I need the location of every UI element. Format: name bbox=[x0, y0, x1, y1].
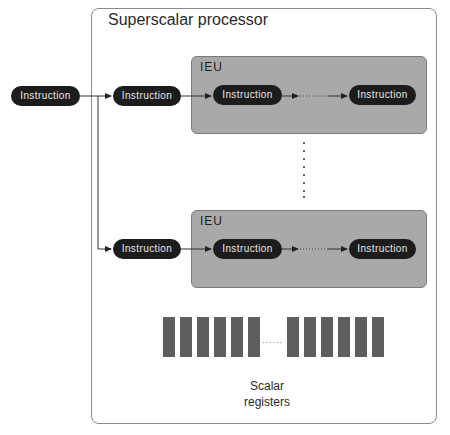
register-cell bbox=[321, 317, 333, 357]
scalar-registers-label-line2: registers bbox=[230, 394, 304, 410]
vertical-ellipsis-icon bbox=[303, 142, 305, 198]
ieu2-last-instruction-pill: Instruction bbox=[349, 239, 416, 259]
ieu1-first-instruction-pill: Instruction bbox=[213, 85, 282, 105]
register-cell bbox=[197, 317, 209, 357]
scalar-registers-label-line1: Scalar bbox=[230, 378, 304, 394]
register-cell bbox=[180, 317, 192, 357]
register-cell bbox=[163, 317, 175, 357]
ieu2-first-instruction-pill: Instruction bbox=[213, 239, 282, 259]
ieu1-last-instruction-pill: Instruction bbox=[349, 85, 416, 105]
register-ellipsis: ...... bbox=[262, 335, 283, 345]
scalar-registers-label: Scalar registers bbox=[230, 378, 304, 410]
dispatch-instruction-pill-1: Instruction bbox=[113, 86, 181, 106]
register-cell bbox=[355, 317, 367, 357]
connector-lines bbox=[0, 0, 450, 435]
register-cell bbox=[372, 317, 384, 357]
input-instruction-pill: Instruction bbox=[11, 86, 80, 106]
register-cell bbox=[231, 317, 243, 357]
register-cell bbox=[304, 317, 316, 357]
register-cell bbox=[287, 317, 299, 357]
dispatch-instruction-pill-2: Instruction bbox=[113, 239, 181, 259]
register-cell bbox=[248, 317, 260, 357]
register-cell bbox=[214, 317, 226, 357]
register-cell bbox=[338, 317, 350, 357]
